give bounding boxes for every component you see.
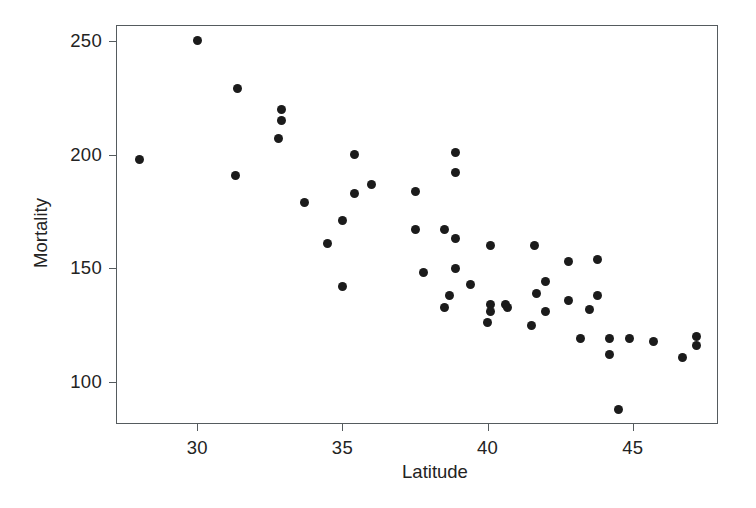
data-point	[231, 171, 240, 180]
data-point	[411, 225, 420, 234]
data-point	[451, 264, 460, 273]
data-point	[451, 234, 460, 243]
data-point	[277, 105, 286, 114]
y-tick-label: 250	[44, 30, 102, 52]
data-point	[564, 257, 573, 266]
data-point	[350, 150, 359, 159]
data-point	[274, 134, 283, 143]
data-point	[576, 334, 585, 343]
x-tick-label: 45	[603, 437, 663, 459]
y-tick-label: 200	[44, 144, 102, 166]
data-point	[367, 180, 376, 189]
data-point	[678, 353, 687, 362]
data-point	[625, 334, 634, 343]
axis-line-bottom	[116, 423, 718, 424]
data-point	[605, 334, 614, 343]
data-point	[605, 350, 614, 359]
data-point	[440, 303, 449, 312]
data-point	[451, 148, 460, 157]
data-point	[593, 291, 602, 300]
data-point	[419, 268, 428, 277]
data-point	[564, 296, 573, 305]
data-point	[338, 216, 347, 225]
y-axis-title: Mortality	[30, 148, 52, 318]
data-point	[649, 337, 658, 346]
data-point	[614, 405, 623, 414]
axis-line-left	[116, 25, 117, 424]
y-tick	[109, 155, 116, 156]
data-point	[692, 332, 701, 341]
axis-line-right	[717, 25, 718, 424]
data-point	[486, 307, 495, 316]
data-point	[593, 255, 602, 264]
x-tick-label: 35	[312, 437, 372, 459]
data-point	[440, 225, 449, 234]
data-point	[411, 187, 420, 196]
data-point	[445, 291, 454, 300]
data-point	[338, 282, 347, 291]
data-point	[323, 239, 332, 248]
data-point	[193, 36, 202, 45]
data-point	[233, 84, 242, 93]
x-tick	[342, 424, 343, 431]
y-tick	[109, 41, 116, 42]
data-point	[277, 116, 286, 125]
data-point	[300, 198, 309, 207]
x-tick	[197, 424, 198, 431]
x-axis-title: Latitude	[335, 461, 535, 483]
y-tick-label: 150	[44, 257, 102, 279]
x-tick	[488, 424, 489, 431]
data-point	[532, 289, 541, 298]
data-point	[135, 155, 144, 164]
data-point	[692, 341, 701, 350]
data-point	[530, 241, 539, 250]
data-point	[451, 168, 460, 177]
data-point	[350, 189, 359, 198]
y-tick	[109, 268, 116, 269]
data-point	[503, 303, 512, 312]
y-tick-label: 100	[44, 371, 102, 393]
data-point	[466, 280, 475, 289]
data-point	[585, 305, 594, 314]
data-point	[541, 277, 550, 286]
data-point	[541, 307, 550, 316]
axis-line-top	[116, 25, 718, 26]
y-tick	[109, 382, 116, 383]
scatter-plot-figure: 100150200250 30354045 Latitude Mortality	[0, 0, 756, 508]
x-tick-label: 40	[458, 437, 518, 459]
x-tick-label: 30	[167, 437, 227, 459]
data-point	[483, 318, 492, 327]
data-point	[486, 241, 495, 250]
data-point	[527, 321, 536, 330]
x-tick	[633, 424, 634, 431]
